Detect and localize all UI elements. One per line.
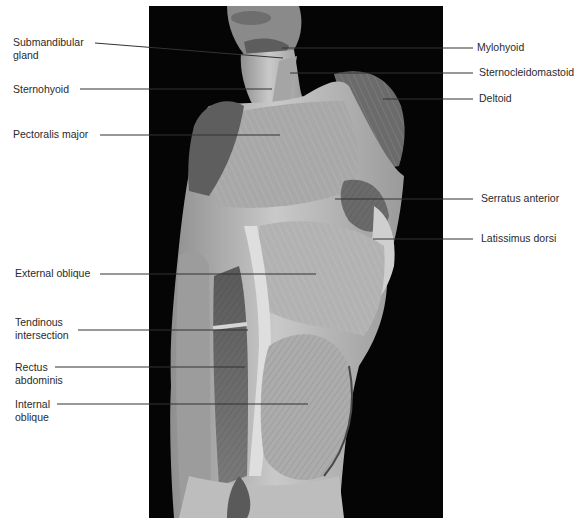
torso-illustration bbox=[149, 6, 443, 518]
label-line: Serratus anterior bbox=[481, 192, 559, 205]
anatomy-figure bbox=[0, 0, 588, 532]
label-line: Deltoid bbox=[479, 92, 512, 105]
label-line: Tendinous bbox=[15, 316, 69, 329]
label-line: abdominis bbox=[15, 374, 63, 387]
label-line: Rectus bbox=[15, 361, 63, 374]
label-line: Sternohyoid bbox=[13, 83, 69, 96]
label-sternocleidomastoid: Sternocleidomastoid bbox=[479, 66, 574, 79]
label-submandibular-gland: Submandibular gland bbox=[13, 36, 84, 62]
label-external-oblique: External oblique bbox=[15, 267, 90, 280]
label-line: Internal bbox=[15, 398, 50, 411]
label-line: gland bbox=[13, 49, 84, 62]
label-rectus-abdominis: Rectus abdominis bbox=[15, 361, 63, 387]
label-internal-oblique: Internal oblique bbox=[15, 398, 50, 424]
label-line: Latissimus dorsi bbox=[481, 232, 556, 245]
label-sternohyoid: Sternohyoid bbox=[13, 83, 69, 96]
label-latissimus-dorsi: Latissimus dorsi bbox=[481, 232, 556, 245]
label-line: Submandibular bbox=[13, 36, 84, 49]
dissection-photo bbox=[149, 6, 443, 518]
label-tendinous-intersection: Tendinous intersection bbox=[15, 316, 69, 342]
label-line: oblique bbox=[15, 411, 50, 424]
label-deltoid: Deltoid bbox=[479, 92, 512, 105]
label-line: External oblique bbox=[15, 267, 90, 280]
label-serratus-anterior: Serratus anterior bbox=[481, 192, 559, 205]
label-line: Mylohyoid bbox=[477, 41, 524, 54]
label-line: Sternocleidomastoid bbox=[479, 66, 574, 79]
label-mylohyoid: Mylohyoid bbox=[477, 41, 524, 54]
label-line: intersection bbox=[15, 329, 69, 342]
label-line: Pectoralis major bbox=[13, 128, 88, 141]
label-pectoralis-major: Pectoralis major bbox=[13, 128, 88, 141]
